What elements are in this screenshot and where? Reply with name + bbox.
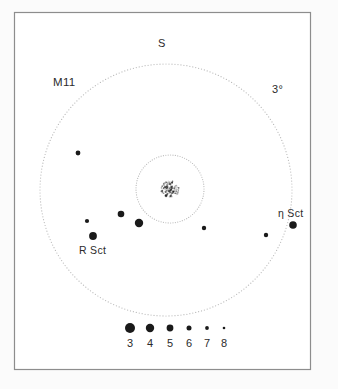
field-circle-dot bbox=[291, 195, 292, 196]
inner-circle-dot bbox=[136, 192, 137, 193]
field-circle-dot bbox=[139, 66, 140, 67]
inner-circle-dot bbox=[198, 170, 199, 171]
field-circle-dot bbox=[231, 82, 232, 83]
field-circle-dot bbox=[280, 137, 281, 138]
inner-circle-dot bbox=[165, 155, 166, 156]
field-circle-dot bbox=[290, 174, 291, 175]
star--sct bbox=[289, 221, 297, 229]
field-circle-dot bbox=[58, 255, 59, 256]
field-circle-dot bbox=[147, 65, 148, 66]
field-circle-dot bbox=[74, 102, 75, 103]
field-circle-dot bbox=[183, 314, 184, 315]
field-circle-dot bbox=[220, 76, 221, 77]
inner-circle-dot bbox=[194, 212, 195, 213]
inner-circle-dot bbox=[182, 157, 183, 158]
cluster-speckle bbox=[175, 185, 176, 186]
field-circle-dot bbox=[127, 69, 128, 70]
inner-circle-dot bbox=[143, 167, 144, 168]
field-circle-dot bbox=[121, 71, 122, 72]
cluster-speckle bbox=[174, 192, 176, 194]
field-circle-dot bbox=[271, 121, 272, 122]
field-circle-dot bbox=[108, 77, 109, 78]
field-circle-dot bbox=[282, 236, 283, 237]
inner-circle-dot bbox=[199, 172, 200, 173]
field-circle-dot bbox=[226, 300, 227, 301]
cluster-name-label: M11 bbox=[53, 76, 75, 88]
field-circle-dot bbox=[42, 216, 43, 217]
field-circle-dot bbox=[289, 163, 290, 164]
legend-label-mag-4: 4 bbox=[143, 337, 157, 349]
field-circle-dot bbox=[277, 247, 278, 248]
field-circle-dot bbox=[159, 315, 160, 316]
inner-circle-dot bbox=[175, 155, 176, 156]
field-circle-dot bbox=[218, 304, 219, 305]
field-circle-dot bbox=[76, 278, 77, 279]
field-circle-dot bbox=[41, 168, 42, 169]
field-circle-dot bbox=[133, 311, 134, 312]
field-circle-dot bbox=[50, 140, 51, 141]
field-circle-dot bbox=[168, 315, 169, 316]
inner-circle-dot bbox=[198, 207, 199, 208]
field-circle-dot bbox=[291, 192, 292, 193]
field-circle-dot bbox=[100, 297, 101, 298]
field-circle-dot bbox=[65, 114, 66, 115]
field-circle-dot bbox=[121, 307, 122, 308]
field-circle-dot bbox=[40, 180, 41, 181]
inner-circle-dot bbox=[186, 218, 187, 219]
cluster-speckle bbox=[174, 188, 176, 190]
field-circle-dot bbox=[281, 140, 282, 141]
inner-circle-dot bbox=[200, 202, 201, 203]
direction-marker-label: S bbox=[158, 37, 166, 49]
inner-circle-dot bbox=[170, 154, 171, 155]
cluster-speckle bbox=[169, 192, 171, 194]
field-circle-dot bbox=[61, 119, 62, 120]
field-circle-dot bbox=[90, 290, 91, 291]
field-circle-dot bbox=[228, 299, 229, 300]
field-circle-dot bbox=[168, 63, 169, 64]
field-circle-dot bbox=[209, 71, 210, 72]
field-circle-dot bbox=[39, 189, 40, 190]
field-circle-dot bbox=[162, 315, 163, 316]
cluster-speckle bbox=[176, 187, 178, 189]
field-circle-dot bbox=[201, 310, 202, 311]
field-circle-dot bbox=[236, 294, 237, 295]
inner-circle-dot bbox=[136, 185, 137, 186]
inner-circle-dot bbox=[161, 221, 162, 222]
field-circle-dot bbox=[44, 222, 45, 223]
field-circle-dot bbox=[218, 75, 219, 76]
field-circle-dot bbox=[189, 313, 190, 314]
field-circle-dot bbox=[139, 313, 140, 314]
field-circle-dot bbox=[61, 260, 62, 261]
field-circle-dot bbox=[81, 96, 82, 97]
field-circle-dot bbox=[285, 228, 286, 229]
field-circle-dot bbox=[100, 82, 101, 83]
inner-circle-dot bbox=[140, 206, 141, 207]
inner-circle-dot bbox=[172, 222, 173, 223]
inner-circle-dot bbox=[188, 217, 189, 218]
field-circle-dot bbox=[273, 255, 274, 256]
field-circle-dot bbox=[234, 295, 235, 296]
inner-circle-dot bbox=[144, 165, 145, 166]
field-circle-dot bbox=[66, 111, 67, 112]
star-point bbox=[135, 219, 143, 227]
field-circle-dot bbox=[275, 126, 276, 127]
cluster-speckle bbox=[166, 190, 167, 191]
field-circle-dot bbox=[81, 283, 82, 284]
field-circle-dot bbox=[68, 109, 69, 110]
cluster-speckle bbox=[175, 188, 177, 190]
field-circle-dot bbox=[215, 305, 216, 306]
inner-circle-dot bbox=[190, 215, 191, 216]
cluster-speckle bbox=[175, 191, 177, 193]
field-circle-dot bbox=[195, 67, 196, 68]
inner-circle-dot bbox=[190, 161, 191, 162]
field-circle-dot bbox=[130, 68, 131, 69]
inner-circle-dot bbox=[161, 156, 162, 157]
field-circle-dot bbox=[248, 285, 249, 286]
field-circle-dot bbox=[153, 315, 154, 316]
inner-circle-dot bbox=[140, 171, 141, 172]
field-circle-dot bbox=[44, 157, 45, 158]
field-circle-dot bbox=[231, 297, 232, 298]
inner-circle-dot bbox=[184, 158, 185, 159]
field-circle-dot bbox=[263, 109, 264, 110]
inner-circle-dot bbox=[202, 179, 203, 180]
